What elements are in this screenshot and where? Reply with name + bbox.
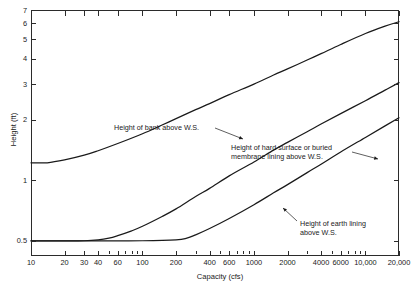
x-tick-30 <box>84 251 85 256</box>
x-tick-minor <box>249 251 250 254</box>
x-tick-minor <box>137 251 138 254</box>
annotation-hard-surface: Height of hard surface or buried membran… <box>231 143 332 161</box>
x-tick-10,000 <box>365 251 366 256</box>
x-tick-minor <box>307 251 308 254</box>
y-tick-label: 7 <box>3 6 27 15</box>
y-tick-1 <box>31 180 36 181</box>
x-tick-400 <box>210 251 211 256</box>
series-line-1 <box>31 83 399 241</box>
y-tick-right-2 <box>394 120 399 121</box>
y-tick-label: 6 <box>3 19 27 28</box>
x-tick-40 <box>98 251 99 256</box>
x-tick-minor <box>243 251 244 254</box>
x-tick-1000 <box>254 251 255 256</box>
x-tick-60 <box>118 251 119 256</box>
x-tick-top-30 <box>84 11 85 16</box>
x-tick-2000 <box>288 251 289 256</box>
y-tick-right-3 <box>394 84 399 85</box>
y-tick-2 <box>31 120 36 121</box>
x-tick-6000 <box>341 251 342 256</box>
y-tick-3 <box>31 84 36 85</box>
annotation-arrowhead-bank <box>239 136 243 139</box>
x-tick-minor <box>348 251 349 254</box>
x-tick-top-20,000 <box>399 11 400 16</box>
x-tick-top-60 <box>118 11 119 16</box>
x-tick-top-1000 <box>254 11 255 16</box>
x-tick-10 <box>31 251 32 256</box>
x-tick-20,000 <box>399 251 400 256</box>
x-tick-top-400 <box>210 11 211 16</box>
x-tick-label: 20,000 <box>379 258 416 267</box>
x-tick-minor <box>220 251 221 254</box>
x-tick-600 <box>229 251 230 256</box>
chart-root: 0.51234567102030406010020040060010002000… <box>0 0 416 289</box>
y-axis-title: Height (ft) <box>9 100 18 160</box>
y-tick-label: 5 <box>3 35 27 44</box>
x-tick-top-10,000 <box>365 11 366 16</box>
x-tick-top-20 <box>65 11 66 16</box>
y-tick-6 <box>31 23 36 24</box>
x-tick-100 <box>142 251 143 256</box>
x-tick-minor <box>196 251 197 254</box>
x-tick-top-40 <box>98 11 99 16</box>
y-tick-label: 0.5 <box>3 236 27 245</box>
x-tick-top-600 <box>229 11 230 16</box>
x-tick-top-200 <box>176 11 177 16</box>
y-tick-right-6 <box>394 23 399 24</box>
x-tick-top-6000 <box>341 11 342 16</box>
x-tick-minor <box>125 251 126 254</box>
y-tick-label: 4 <box>3 54 27 63</box>
series-line-0 <box>31 22 399 163</box>
y-tick-right-0.5 <box>394 241 399 242</box>
x-tick-minor <box>332 251 333 254</box>
x-tick-minor <box>355 251 356 254</box>
x-tick-minor <box>109 251 110 254</box>
annotation-leader-bank <box>215 128 243 139</box>
y-tick-label: 1 <box>3 176 27 185</box>
annotation-bank: Height of bank above W.S. <box>114 123 199 132</box>
y-tick-right-4 <box>394 59 399 60</box>
x-tick-top-2000 <box>288 11 289 16</box>
y-tick-4 <box>31 59 36 60</box>
x-tick-200 <box>176 251 177 256</box>
x-tick-top-100 <box>142 11 143 16</box>
annotation-earth-lining: Height of earth lining above W.S. <box>300 219 366 237</box>
y-tick-5 <box>31 39 36 40</box>
x-tick-minor <box>237 251 238 254</box>
x-tick-minor <box>132 251 133 254</box>
y-tick-right-5 <box>394 39 399 40</box>
x-axis-title: Capacity (cfs) <box>175 272 265 281</box>
chart-canvas <box>0 0 416 289</box>
x-tick-20 <box>65 251 66 256</box>
y-tick-right-1 <box>394 180 399 181</box>
x-tick-top-10 <box>31 11 32 16</box>
x-tick-minor <box>360 251 361 254</box>
y-tick-0.5 <box>31 241 36 242</box>
x-tick-top-4000 <box>321 11 322 16</box>
annotation-leader-hard-surface <box>352 152 378 159</box>
x-tick-4000 <box>321 251 322 256</box>
y-tick-label: 3 <box>3 80 27 89</box>
